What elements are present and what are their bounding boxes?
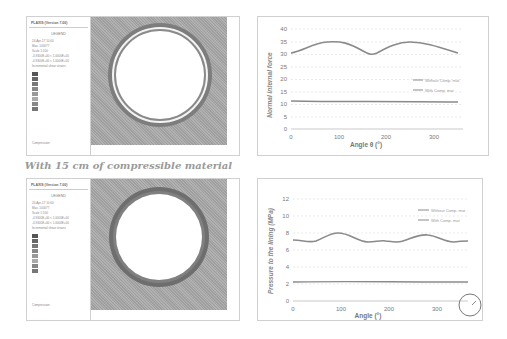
x-axis-label: Angle (°) [355, 312, 382, 320]
svg-text:8: 8 [286, 230, 290, 236]
scale-label: Incremental shear strains [32, 226, 85, 230]
tunnel-opening [116, 194, 202, 280]
svg-text:2: 2 [286, 281, 290, 287]
fem-header: PLAXIS (Version 7.00) [29, 19, 88, 28]
svg-text:With Comp. mat: With Comp. mat [431, 218, 461, 223]
svg-text:40: 40 [280, 26, 287, 32]
y-axis-label: Normal internal force [266, 52, 273, 118]
svg-text:100: 100 [336, 306, 347, 312]
svg-text:15: 15 [280, 89, 287, 95]
series-without-comp-mat [291, 42, 458, 55]
svg-text:6: 6 [286, 247, 290, 253]
x-tick-labels: 0100200300 [289, 134, 439, 140]
svg-text:Without Comp. mat: Without Comp. mat [425, 78, 460, 83]
chart-pressure-lining-svg: 121086 420 0100200300 Angle (°) Pressure… [258, 179, 484, 322]
chart-normal-force: 40353025 20151050 0100200300 Angle θ (°)… [257, 16, 489, 156]
magnifier-glyph [472, 301, 476, 305]
svg-text:25: 25 [280, 64, 287, 70]
svg-text:0: 0 [289, 134, 293, 140]
fem-footer: Compression [32, 303, 85, 307]
color-scale [32, 234, 85, 273]
legend: Without Comp. mat With Comp. mat [418, 208, 466, 223]
legend-line: 24-Apr-17 10:00 [32, 201, 85, 205]
legend-line: -4.9300E+00 < 1.0000E+00 [32, 221, 85, 225]
fem-plot-top: PLAXIS (Version 7.00) LEGEND 24-Apr-17 1… [26, 16, 240, 156]
legend-line: Max. 100077 [32, 44, 85, 48]
y-tick-labels: 40353025 20151050 [280, 26, 287, 132]
legend-line: 24-Apr-17 10:00 [32, 39, 85, 43]
chart-normal-force-svg: 40353025 20151050 0100200300 Angle θ (°)… [258, 17, 490, 157]
figure-caption: With 15 cm of compressible material [0, 160, 257, 171]
svg-text:5: 5 [284, 114, 288, 120]
svg-text:35: 35 [280, 39, 287, 45]
svg-text:12: 12 [282, 196, 289, 202]
legend: Without Comp. mat With Comp. mat [413, 78, 460, 93]
fem-footer: Compression [32, 141, 85, 145]
y-tick-labels: 121086 420 [282, 196, 289, 304]
svg-text:0: 0 [286, 298, 290, 304]
legend-line: -4.9300E+00 < 1.0000E+00 [32, 59, 85, 63]
svg-text:10: 10 [280, 101, 287, 107]
series-without-comp-mat [293, 233, 468, 242]
legend-title: LEGEND [29, 32, 88, 36]
legend-line: Max. 100077 [32, 206, 85, 210]
fem-mesh [91, 17, 227, 145]
svg-text:300: 300 [429, 134, 440, 140]
svg-text:300: 300 [432, 306, 443, 312]
tunnel-opening [116, 31, 204, 119]
svg-text:30: 30 [280, 51, 287, 57]
fem-mesh [91, 179, 227, 310]
svg-text:Without Comp. mat: Without Comp. mat [431, 208, 466, 213]
legend-line: Scale 1:100 [32, 211, 85, 215]
fem-header: PLAXIS (Version 7.00) [29, 181, 88, 190]
svg-text:0: 0 [291, 306, 295, 312]
svg-text:200: 200 [381, 134, 392, 140]
x-axis-label: Angle θ (°) [350, 141, 382, 149]
svg-text:With Comp. mat: With Comp. mat [425, 88, 455, 93]
fem-legend-top: PLAXIS (Version 7.00) LEGEND 24-Apr-17 1… [27, 17, 91, 155]
svg-text:200: 200 [384, 306, 395, 312]
legend-title: LEGEND [29, 194, 88, 198]
series-with-comp-mat [291, 101, 458, 102]
legend-line: -4.9300E+00 < 1.0000E+00 [32, 216, 85, 220]
svg-text:10: 10 [282, 213, 289, 219]
magnifier-circle [459, 294, 481, 316]
svg-text:4: 4 [286, 264, 290, 270]
legend-line: Scale 1:100 [32, 49, 85, 53]
color-scale [32, 72, 85, 111]
fem-legend-bottom: PLAXIS (Version 7.00) LEGEND 24-Apr-17 1… [27, 179, 91, 320]
svg-text:100: 100 [334, 134, 345, 140]
svg-text:20: 20 [280, 76, 287, 82]
chart-pressure-lining: 121086 420 0100200300 Angle (°) Pressure… [257, 178, 483, 321]
legend-line: -4.9300E+00 < 1.0000E+00 [32, 54, 85, 58]
y-axis-label: Pressure to the lining (MPa) [267, 208, 275, 294]
gridlines [291, 29, 463, 117]
scale-label: Incremental shear strains [32, 64, 85, 68]
fem-plot-bottom: PLAXIS (Version 7.00) LEGEND 24-Apr-17 1… [26, 178, 240, 321]
svg-text:0: 0 [284, 126, 288, 132]
